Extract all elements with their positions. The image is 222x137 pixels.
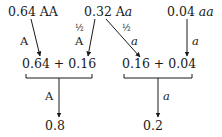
- genotype-aa: aa: [199, 4, 214, 19]
- freq-AA: 0.64: [8, 4, 36, 19]
- arrow-Aa-to-A: [88, 19, 95, 56]
- source-AA: 0.64 AA: [8, 5, 58, 18]
- arrow-AA-to-A: [31, 19, 40, 56]
- bracket-A-sum: [26, 74, 92, 78]
- freq-aa: 0.04: [167, 4, 195, 19]
- genotype-AA: AA: [40, 4, 58, 19]
- genotype-Aa: Aa: [116, 4, 132, 19]
- freq-Aa: 0.32: [84, 4, 112, 19]
- source-Aa: 0.32 Aa: [84, 5, 132, 18]
- edge-label-AA-A: A: [20, 35, 28, 47]
- sum-a: 0.16 + 0.04: [122, 57, 196, 70]
- result-label-a: a: [163, 90, 170, 102]
- edge-label-Aa-A-fraction: ½: [75, 23, 84, 33]
- sum-A: 0.64 + 0.16: [22, 57, 96, 70]
- edge-label-aa-a: a: [192, 35, 199, 47]
- bracket-a-sum: [124, 74, 192, 78]
- result-value-A: 0.8: [45, 119, 65, 132]
- result-label-A: A: [45, 90, 53, 102]
- source-aa: 0.04 aa: [167, 5, 214, 18]
- result-value-a: 0.2: [143, 119, 163, 132]
- edge-label-Aa-A-allele: A: [75, 35, 83, 47]
- edge-label-Aa-a-allele: a: [131, 35, 138, 47]
- edge-label-Aa-a-fraction: ½: [122, 23, 131, 33]
